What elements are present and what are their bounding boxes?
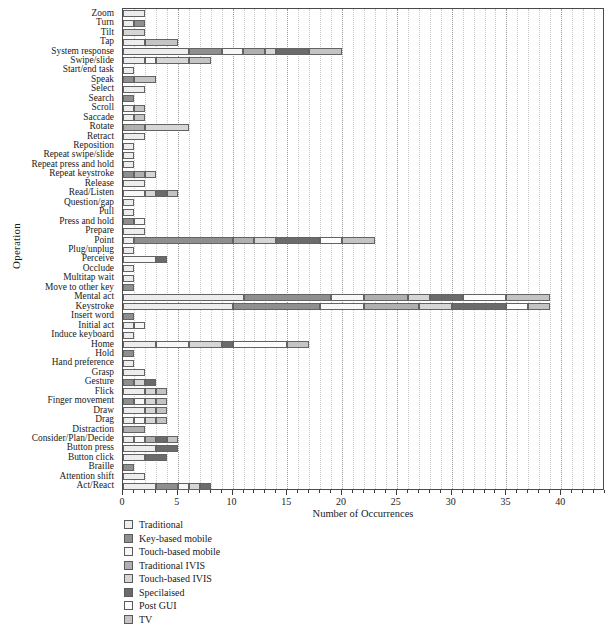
legend-item: Post GUI — [124, 599, 364, 613]
bar-row — [123, 322, 145, 329]
x-tick — [122, 490, 123, 495]
bar-segment — [123, 454, 145, 461]
bar-segment — [134, 436, 145, 443]
bar-segment — [123, 152, 134, 159]
bar-segment — [123, 294, 244, 301]
x-tick-label: 5 — [174, 496, 179, 507]
bar-segment — [200, 483, 211, 490]
bar-segment — [123, 180, 145, 187]
gridline — [495, 9, 496, 489]
x-tick — [275, 490, 276, 493]
legend-swatch — [124, 601, 133, 610]
bar-segment — [123, 303, 233, 310]
bar-row — [123, 133, 145, 140]
bar-segment — [123, 360, 134, 367]
x-tick — [396, 490, 397, 495]
bar-segment — [178, 483, 189, 490]
bar-segment — [134, 322, 145, 329]
legend-label: Specilaised — [139, 587, 185, 598]
gridline — [276, 9, 277, 489]
x-tick — [593, 490, 594, 493]
bar-segment — [254, 237, 276, 244]
x-tick — [319, 490, 320, 493]
bar-segment — [156, 417, 167, 424]
bar-row — [123, 341, 309, 348]
gridline — [561, 9, 562, 489]
bar-row — [123, 20, 145, 27]
legend-label: Traditional IVIS — [139, 560, 205, 571]
gridline — [211, 9, 212, 489]
x-tick — [407, 490, 408, 493]
bar-row — [123, 114, 145, 121]
x-tick — [560, 490, 561, 495]
legend-swatch — [124, 574, 133, 583]
bar-segment — [123, 190, 145, 197]
bar-row — [123, 369, 145, 376]
bar-segment — [134, 379, 145, 386]
bar-row — [123, 294, 550, 301]
bar-segment — [528, 303, 550, 310]
bar-segment — [145, 57, 156, 64]
bar-row — [123, 199, 134, 206]
bar-segment — [419, 303, 452, 310]
bar-segment — [123, 350, 134, 357]
x-tick — [330, 490, 331, 493]
bar-segment — [276, 48, 309, 55]
x-tick-label: 20 — [336, 496, 346, 507]
bar-segment — [123, 369, 145, 376]
bar-segment — [123, 256, 156, 263]
bar-segment — [123, 284, 134, 291]
bar-segment — [156, 436, 167, 443]
bar-row — [123, 398, 167, 405]
x-tick — [341, 490, 342, 495]
gridline — [430, 9, 431, 489]
legend-swatch — [124, 534, 133, 543]
bar-segment — [134, 20, 145, 27]
bar-segment — [123, 133, 145, 140]
gridline — [463, 9, 464, 489]
bar-segment — [123, 379, 134, 386]
bar-segment — [123, 29, 145, 36]
x-tick-label: 40 — [555, 496, 565, 507]
bar-segment — [123, 209, 134, 216]
bar-segment — [156, 57, 189, 64]
x-tick-label: 0 — [120, 496, 125, 507]
bar-row — [123, 284, 134, 291]
bar-segment — [123, 436, 134, 443]
legend-item: Touch-based mobile — [124, 545, 364, 559]
bar-row — [123, 105, 145, 112]
bar-segment — [123, 275, 134, 282]
bar-row — [123, 124, 189, 131]
bar-row — [123, 76, 156, 83]
bar-segment — [145, 171, 156, 178]
x-tick — [538, 490, 539, 493]
x-tick — [484, 490, 485, 493]
bar-row — [123, 332, 134, 339]
bar-segment — [320, 303, 364, 310]
bar-row — [123, 464, 134, 471]
gridline — [233, 9, 234, 489]
bar-segment — [145, 39, 178, 46]
bar-segment — [123, 398, 134, 405]
bar-row — [123, 388, 167, 395]
gridline — [517, 9, 518, 489]
x-tick-label: 15 — [281, 496, 291, 507]
x-tick — [144, 490, 145, 493]
gridline — [386, 9, 387, 489]
gridline — [342, 9, 343, 489]
bar-segment — [123, 67, 134, 74]
gridline — [375, 9, 376, 489]
bar-segment — [222, 341, 233, 348]
x-tick — [462, 490, 463, 493]
bar-row — [123, 86, 145, 93]
bar-segment — [156, 256, 167, 263]
bar-segment — [222, 48, 244, 55]
gridline — [244, 9, 245, 489]
bar-segment — [123, 247, 134, 254]
x-tick-label: 35 — [500, 496, 510, 507]
x-tick — [210, 490, 211, 493]
bar-segment — [123, 313, 134, 320]
legend-swatch — [124, 520, 133, 529]
bar-segment — [320, 237, 342, 244]
bar-segment — [189, 483, 200, 490]
